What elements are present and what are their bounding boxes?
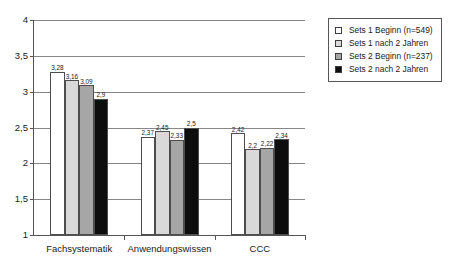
bar-value-label: 2,37 xyxy=(142,130,154,136)
bar-value-label: 2,9 xyxy=(96,92,105,98)
x-axis-tick xyxy=(215,235,216,240)
bar[interactable]: 3,16 xyxy=(65,80,80,235)
y-axis-tick xyxy=(30,199,34,200)
legend-item-label: Sets 2 Beginn (n=237) xyxy=(349,52,433,60)
bar[interactable]: 2,5 xyxy=(184,128,199,236)
legend-swatch-icon xyxy=(335,27,342,34)
bar[interactable]: 2,45 xyxy=(155,131,170,235)
y-axis-tick xyxy=(30,163,34,164)
y-axis-tick-label: 1,5 xyxy=(15,194,28,204)
y-axis-tick xyxy=(30,128,34,129)
x-axis-category-label: Fachsystematik xyxy=(46,244,112,254)
bar-value-label: 3,16 xyxy=(66,74,78,80)
y-axis-tick-label: 2 xyxy=(23,159,28,169)
chart-legend: Sets 1 Beginn (n=549)Sets 1 nach 2 Jahre… xyxy=(328,18,442,82)
bar-value-label: 2,42 xyxy=(232,127,244,133)
y-axis-tick-label: 1 xyxy=(23,230,28,240)
y-axis-tick-label: 3,5 xyxy=(15,51,28,61)
bar-value-label: 3,28 xyxy=(51,65,63,71)
x-axis-category-label: CCC xyxy=(250,244,271,254)
legend-item-label: Sets 2 nach 2 Jahren xyxy=(349,65,428,73)
legend-item[interactable]: Sets 2 nach 2 Jahren xyxy=(335,63,433,76)
bar-group: 2,422,22,222,34 xyxy=(231,20,289,235)
bar[interactable]: 2,2 xyxy=(245,149,260,235)
bar-group: 3,283,163,092,9 xyxy=(50,20,108,235)
y-axis-tick xyxy=(30,92,34,93)
legend-swatch-icon xyxy=(335,40,342,47)
y-axis-tick-label: 2,5 xyxy=(15,123,28,133)
bar-value-label: 2,5 xyxy=(187,121,196,127)
x-axis-tick xyxy=(305,235,306,240)
bar[interactable]: 3,28 xyxy=(50,72,65,235)
legend-item-label: Sets 1 nach 2 Jahren xyxy=(349,39,428,47)
legend-item-label: Sets 1 Beginn (n=549) xyxy=(349,26,433,34)
y-axis-tick xyxy=(30,56,34,57)
legend-item[interactable]: Sets 1 Beginn (n=549) xyxy=(335,24,433,37)
bar[interactable]: 2,33 xyxy=(170,140,185,235)
legend-item[interactable]: Sets 1 nach 2 Jahren xyxy=(335,37,433,50)
bar[interactable]: 2,22 xyxy=(260,148,275,235)
bar-value-label: 2,33 xyxy=(171,133,183,139)
y-axis-tick-label: 4 xyxy=(23,15,28,25)
bar-value-label: 2,34 xyxy=(275,133,287,139)
x-axis-tick xyxy=(124,235,125,240)
bar-value-label: 2,2 xyxy=(248,143,257,149)
plot-area: 11,522,533,543,283,163,092,9Fachsystemat… xyxy=(33,20,305,236)
bar[interactable]: 2,9 xyxy=(94,99,109,235)
legend-swatch-icon xyxy=(335,66,342,73)
legend-item[interactable]: Sets 2 Beginn (n=237) xyxy=(335,50,433,63)
bar-value-label: 3,09 xyxy=(80,79,92,85)
bar[interactable]: 2,34 xyxy=(274,139,289,235)
bar-value-label: 2,22 xyxy=(261,141,273,147)
y-axis-tick xyxy=(30,20,34,21)
legend-swatch-icon xyxy=(335,53,342,60)
bar[interactable]: 3,09 xyxy=(79,85,94,235)
bar-group: 2,372,452,332,5 xyxy=(141,20,199,235)
y-axis-tick xyxy=(30,235,34,236)
bar[interactable]: 2,42 xyxy=(231,133,246,235)
y-axis-tick-label: 3 xyxy=(23,87,28,97)
bar[interactable]: 2,37 xyxy=(141,137,156,235)
x-axis-category-label: Anwendungswissen xyxy=(128,244,212,254)
bar-chart-figure: 11,522,533,543,283,163,092,9Fachsystemat… xyxy=(0,0,462,266)
bar-value-label: 2,45 xyxy=(156,125,168,131)
